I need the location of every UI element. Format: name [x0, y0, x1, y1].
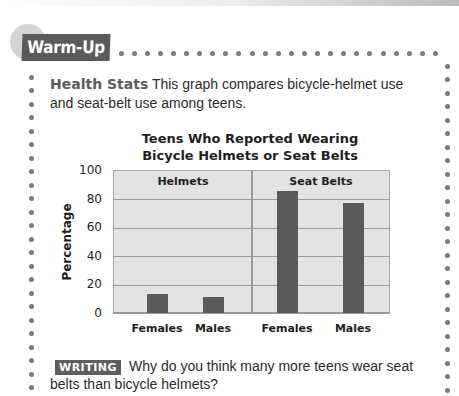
- border-dot: [433, 51, 438, 56]
- border-dot: [119, 51, 124, 56]
- border-dot: [29, 264, 34, 269]
- border-dot: [29, 169, 34, 174]
- writing-badge: WRITING: [55, 360, 121, 375]
- x-label-seat-belts-females: Females: [252, 322, 322, 335]
- border-dot: [445, 77, 450, 82]
- intro-paragraph: Health Stats This graph compares bicycle…: [50, 75, 420, 113]
- border-dot: [445, 320, 450, 325]
- border-dot: [29, 250, 34, 255]
- border-dot: [302, 51, 307, 56]
- chart-title: Teens Who Reported Wearing Bicycle Helme…: [100, 130, 400, 164]
- border-dot: [29, 102, 34, 107]
- page-edge-shadow: [0, 0, 459, 6]
- border-dot: [445, 347, 450, 352]
- border-dot: [367, 51, 372, 56]
- bar-seat-belts-females: [277, 191, 298, 313]
- border-dot: [29, 223, 34, 228]
- border-dot: [445, 199, 450, 204]
- x-label-seat-belts-males: Males: [318, 322, 388, 335]
- border-dot: [29, 156, 34, 161]
- border-dot: [29, 277, 34, 282]
- border-dot: [263, 51, 268, 56]
- border-dot: [250, 51, 255, 56]
- border-dot: [407, 51, 412, 56]
- border-dot: [29, 129, 34, 134]
- border-dot: [29, 318, 34, 323]
- border-dot: [445, 104, 450, 109]
- border-dot: [197, 51, 202, 56]
- y-tick-80: 80: [72, 192, 102, 206]
- border-dot: [445, 361, 450, 366]
- border-dot: [29, 183, 34, 188]
- border-dot: [445, 239, 450, 244]
- border-dot: [445, 185, 450, 190]
- border-dot: [29, 372, 34, 377]
- border-dot: [29, 237, 34, 242]
- y-tick-60: 60: [72, 220, 102, 234]
- intro-lead: Health Stats: [50, 76, 148, 92]
- border-dot: [315, 51, 320, 56]
- border-dot: [171, 51, 176, 56]
- y-tick-40: 40: [72, 249, 102, 263]
- border-dot: [29, 345, 34, 350]
- border-dot: [276, 51, 281, 56]
- border-dot: [445, 212, 450, 217]
- border-dot: [445, 388, 450, 393]
- border-dot: [445, 266, 450, 271]
- border-dot: [354, 51, 359, 56]
- border-dot: [420, 51, 425, 56]
- y-tick-100: 100: [72, 163, 102, 177]
- border-dot: [29, 115, 34, 120]
- border-dot: [29, 75, 34, 80]
- border-dot: [29, 385, 34, 390]
- border-dot: [445, 293, 450, 298]
- y-tick-20: 20: [72, 277, 102, 291]
- border-dot: [445, 172, 450, 177]
- border-dot: [289, 51, 294, 56]
- border-dot: [445, 253, 450, 258]
- border-dot: [29, 304, 34, 309]
- border-dot: [381, 51, 386, 56]
- border-dot: [29, 142, 34, 147]
- border-dot: [445, 91, 450, 96]
- border-dot: [445, 280, 450, 285]
- border-dot: [29, 358, 34, 363]
- warm-up-badge: Warm-Up: [22, 34, 111, 61]
- border-dot: [29, 88, 34, 93]
- bar-seat-belts-males: [343, 203, 364, 313]
- border-dot: [29, 196, 34, 201]
- border-dot: [445, 374, 450, 379]
- section-label-seat-belts: Seat Belts: [253, 175, 389, 188]
- border-dot: [445, 334, 450, 339]
- writing-prompt: WRITINGWhy do you think many more teens …: [50, 357, 430, 393]
- border-dot: [445, 158, 450, 163]
- border-dot: [445, 307, 450, 312]
- border-dot: [29, 210, 34, 215]
- x-label-helmets-males: Males: [178, 322, 248, 335]
- section-divider: [251, 171, 253, 312]
- border-dot: [158, 51, 163, 56]
- chart-title-line-2: Bicycle Helmets or Seat Belts: [100, 147, 400, 164]
- border-dot: [445, 64, 450, 69]
- border-dot: [29, 331, 34, 336]
- border-dot: [145, 51, 150, 56]
- border-dot: [328, 51, 333, 56]
- border-dot: [341, 51, 346, 56]
- border-dot: [445, 145, 450, 150]
- border-dot: [132, 51, 137, 56]
- border-dot: [184, 51, 189, 56]
- border-dot: [236, 51, 241, 56]
- border-dot: [445, 118, 450, 123]
- bar-helmets-females: [147, 294, 168, 313]
- y-axis-label: Percentage: [60, 203, 74, 280]
- bar-helmets-males: [203, 297, 224, 313]
- border-dot: [29, 291, 34, 296]
- section-label-helmets: Helmets: [114, 175, 252, 188]
- y-tick-0: 0: [72, 306, 102, 320]
- border-dot: [445, 226, 450, 231]
- chart-title-line-1: Teens Who Reported Wearing: [100, 130, 400, 147]
- border-dot: [445, 131, 450, 136]
- border-dot: [223, 51, 228, 56]
- border-dot: [210, 51, 215, 56]
- border-dot: [394, 51, 399, 56]
